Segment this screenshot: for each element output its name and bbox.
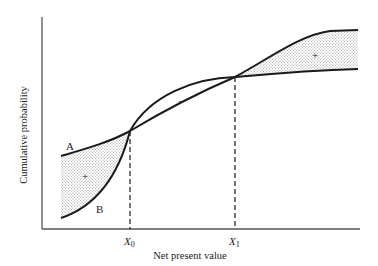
curve-a-label: A: [66, 140, 74, 152]
x-axis-title: Net present value: [153, 250, 227, 261]
x0-label: X0: [123, 235, 135, 249]
x1-label: X1: [228, 235, 240, 249]
region-left-sign: +: [82, 170, 88, 182]
curve-a: [61, 69, 358, 156]
region-right-sign: +: [312, 49, 318, 61]
cumulative-distribution-diagram: + – + A B X0 X1 Net present value Cumula…: [0, 0, 378, 266]
curve-b-label: B: [96, 203, 103, 215]
region-middle-sign: –: [178, 95, 185, 106]
y-axis-title: Cumulative probability: [18, 85, 29, 183]
